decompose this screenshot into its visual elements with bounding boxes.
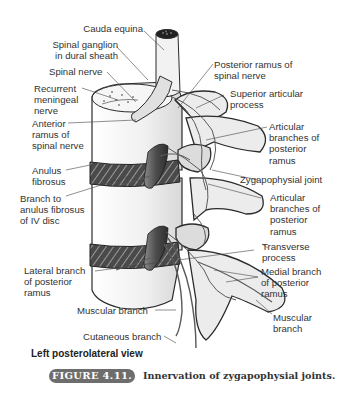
- label-posterior-ramus: Posterior ramus of spinal nerve: [214, 59, 292, 81]
- figure-number-badge: FIGURE 4.11.: [49, 369, 135, 383]
- view-caption: Left posterolateral view: [31, 348, 143, 359]
- label-transverse-process: Transverse process: [262, 241, 310, 263]
- label-spinal-nerve: Spinal nerve: [49, 66, 102, 77]
- label-articular-branches-upper: Articular branches of posterior ramus: [269, 121, 319, 166]
- label-cauda-equina: Cauda equina: [81, 23, 143, 34]
- label-zygapophysial-joint: Zygapophysial joint: [240, 174, 322, 185]
- label-medial-branch: Medial branch of posterior ramus: [261, 266, 321, 300]
- label-anterior-ramus: Anterior ramus of spinal nerve: [32, 118, 84, 152]
- label-muscular-branch-right: Muscular branch: [273, 312, 312, 334]
- label-superior-articular-process: Superior articular process: [230, 88, 303, 110]
- label-spinal-ganglion: Spinal ganglion in dural sheath: [38, 39, 118, 61]
- label-anulus-fibrosus: Anulus fibrosus: [32, 165, 66, 187]
- label-recurrent-meningeal-nerve: Recurrent meningeal nerve: [34, 83, 78, 117]
- label-cutaneous-branch: Cutaneous branch: [83, 331, 161, 342]
- label-muscular-branch-left: Muscular branch: [77, 305, 148, 316]
- figure-title: Innervation of zygapophysial joints.: [143, 369, 335, 383]
- label-lateral-branch: Lateral branch of posterior ramus: [24, 265, 85, 299]
- label-articular-branches-lower: Articular branches of posterior ramus: [270, 192, 320, 237]
- label-branch-to-anulus: Branch to anulus fibrosus of IV disc: [20, 193, 85, 227]
